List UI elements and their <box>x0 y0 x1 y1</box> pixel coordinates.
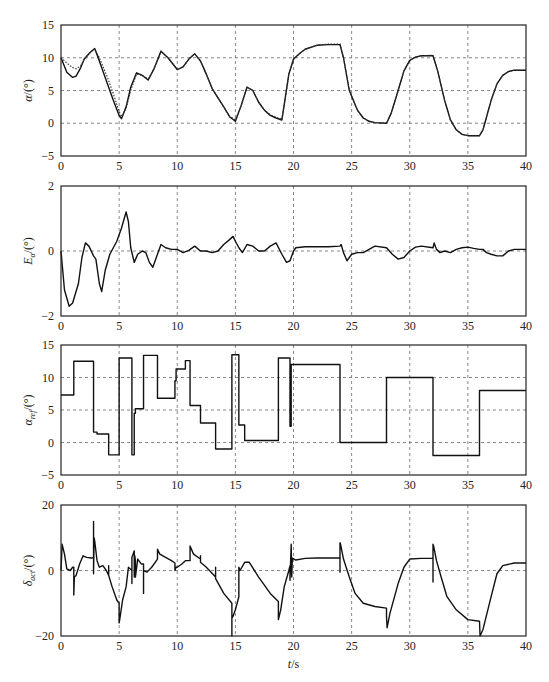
x-tick-label: 35 <box>462 159 474 173</box>
x-tick-label: 5 <box>116 319 122 333</box>
x-tick-label: 30 <box>404 319 416 333</box>
x-tick-label: 40 <box>520 639 532 653</box>
x-tick-label: 15 <box>229 639 241 653</box>
alpha-ref-panel: −50510150510152025303540αref/(°) <box>21 338 532 492</box>
x-tick-label: 10 <box>171 639 183 653</box>
x-tick-label: 5 <box>116 478 122 492</box>
x-tick-label: 0 <box>58 319 64 333</box>
y-axis-label: α/(°) <box>21 79 35 101</box>
y-axis-label: Eα/(°) <box>21 237 37 266</box>
x-tick-label: 35 <box>462 478 474 492</box>
y-tick-label: 5 <box>48 403 54 417</box>
y-tick-label: −20 <box>35 629 54 643</box>
x-tick-label: 20 <box>288 639 300 653</box>
x-tick-label: 25 <box>346 159 358 173</box>
x-tick-label: 40 <box>520 159 532 173</box>
x-tick-label: 5 <box>116 639 122 653</box>
x-tick-label: 20 <box>288 319 300 333</box>
y-tick-label: 0 <box>48 244 54 258</box>
y-tick-label: 0 <box>48 436 54 450</box>
x-tick-label: 15 <box>229 159 241 173</box>
x-tick-label: 15 <box>229 478 241 492</box>
y-tick-label: −2 <box>41 309 54 323</box>
x-tick-label: 10 <box>171 159 183 173</box>
x-tick-label: 5 <box>116 159 122 173</box>
x-tick-label: 15 <box>229 319 241 333</box>
y-tick-label: 20 <box>42 498 54 512</box>
x-tick-label: 25 <box>346 639 358 653</box>
y-tick-label: 15 <box>42 338 54 352</box>
x-tick-label: 25 <box>346 319 358 333</box>
figure: −50510150510152025303540α/(°) −202051015… <box>0 0 549 682</box>
x-tick-label: 40 <box>520 319 532 333</box>
x-tick-label: 25 <box>346 478 358 492</box>
x-tick-label: 30 <box>404 478 416 492</box>
y-tick-label: 10 <box>42 51 54 65</box>
y-tick-label: −5 <box>41 468 54 482</box>
y-axis-label: αref/(°) <box>21 394 37 425</box>
y-tick-label: 2 <box>48 179 54 193</box>
x-tick-label: 0 <box>58 478 64 492</box>
x-tick-label: 35 <box>462 639 474 653</box>
y-tick-label: 10 <box>42 371 54 385</box>
y-tick-label: 0 <box>48 116 54 130</box>
x-tick-label: 30 <box>404 159 416 173</box>
error-panel: −2020510152025303540Eα/(°) <box>21 179 532 333</box>
y-tick-label: −5 <box>41 149 54 163</box>
delta-act-panel: −200200510152025303540δact/(°)t/s <box>21 498 532 671</box>
x-tick-label: 0 <box>58 159 64 173</box>
x-tick-label: 30 <box>404 639 416 653</box>
x-tick-label: 40 <box>520 478 532 492</box>
y-axis-label: δact/(°) <box>21 555 37 586</box>
x-tick-label: 10 <box>171 319 183 333</box>
y-tick-label: 15 <box>42 18 54 32</box>
x-tick-label: 10 <box>171 478 183 492</box>
y-tick-label: 0 <box>48 564 54 578</box>
x-tick-label: 35 <box>462 319 474 333</box>
x-axis-label: t/s <box>288 657 300 671</box>
y-tick-label: 5 <box>48 84 54 98</box>
x-tick-label: 0 <box>58 639 64 653</box>
alpha-panel: −50510150510152025303540α/(°) <box>21 18 532 173</box>
x-tick-label: 20 <box>288 478 300 492</box>
x-tick-label: 20 <box>288 159 300 173</box>
